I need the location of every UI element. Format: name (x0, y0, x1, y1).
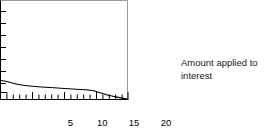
annotation-line-1: Amount applied to (181, 56, 269, 69)
x-tick-label-5: 5 (68, 117, 73, 128)
x-tick-label-15: 15 (129, 117, 140, 128)
annotation-line-2: interest (181, 69, 269, 82)
x-tick-label-20: 20 (161, 117, 172, 128)
curve-annotation: Amount applied to interest (181, 56, 269, 82)
x-tick-label-10: 10 (97, 117, 108, 128)
figure-container: 89. (0, 0, 273, 134)
